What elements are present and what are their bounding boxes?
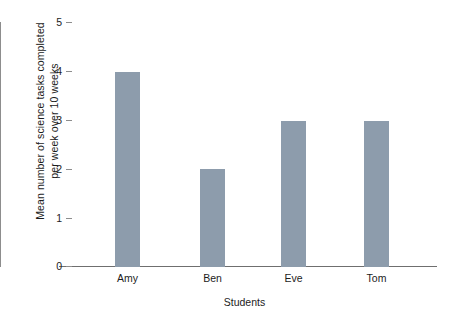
- x-tick-label-tom: Tom: [351, 272, 402, 284]
- bar-chart-figure: Mean number of science tasks completed p…: [0, 0, 453, 323]
- x-tick-label-eve: Eve: [268, 272, 319, 284]
- bars-layer: [0, 0, 453, 267]
- x-axis-title: Students: [224, 296, 265, 308]
- bar-tom: [364, 121, 389, 267]
- bar-eve: [281, 121, 306, 267]
- x-tick-label-amy: Amy: [102, 272, 153, 284]
- bar-ben: [200, 169, 225, 267]
- x-axis-title-wrap: Students: [0, 296, 453, 308]
- bar-amy: [115, 72, 140, 267]
- x-tick-label-ben: Ben: [187, 272, 238, 284]
